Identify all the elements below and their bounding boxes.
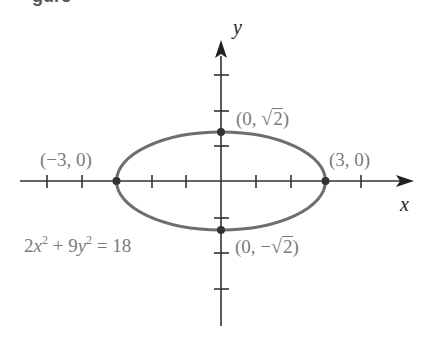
y-axis [214,40,229,326]
covertex-top-dot [217,128,225,136]
x-axis [20,175,414,188]
vertex-right-dot [322,177,330,185]
vertex-left-dot [113,177,121,185]
sqrt-icon: √ [271,235,282,257]
covertex-bottom-dot [217,226,225,234]
point-label-right-vertex: (3, 0) [329,150,370,169]
ellipse-figure: gure [0,0,437,346]
point-label-bottom-covertex: (0, −√2) [235,236,299,256]
point-label-top-covertex: (0, √2) [236,108,289,128]
point-label-left-vertex: (−3, 0) [40,150,92,169]
y-axis-arrow-icon [215,40,227,58]
y-axis-label: y [233,17,242,37]
plot-canvas [0,0,437,346]
sqrt-icon: √ [261,107,272,129]
x-axis-label: x [400,194,409,214]
ellipse-equation: 2x2 + 9y2 = 18 [24,234,131,255]
